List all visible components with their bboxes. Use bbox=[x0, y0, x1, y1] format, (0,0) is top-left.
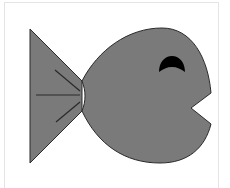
tail-fin bbox=[30, 29, 82, 163]
fish-illustration bbox=[0, 0, 230, 188]
fish-body bbox=[82, 28, 211, 163]
